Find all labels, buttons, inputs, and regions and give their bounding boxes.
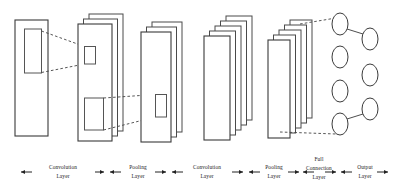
axis-label-conv-2-line-1: Convolution [193, 164, 221, 170]
axis-label-output-line-1: Output [357, 164, 373, 170]
axis-label-conv-1-line-1: Convolution [49, 164, 77, 170]
output-node-2-2 [362, 64, 378, 86]
axis-label-pool-2-line-2: Layer [267, 173, 280, 179]
conv2-plane-1 [204, 36, 230, 140]
output-node-1-2 [332, 46, 348, 68]
axis-segment-full-connection: Full Connection Layer [303, 156, 336, 180]
axis-segment-conv-1: Convolution Layer [21, 164, 104, 179]
stage-pool1 [141, 22, 182, 142]
output-node-1-3 [332, 80, 348, 102]
output-node-2-1 [362, 28, 378, 50]
axis-label-pool-1-line-1: Pooling [129, 164, 147, 170]
output-node-2-3 [362, 98, 378, 120]
conv1-inner-box-top [85, 47, 96, 65]
stage-input [15, 20, 48, 136]
axis-label-output-line-2: Layer [358, 173, 371, 179]
axis-label-full-connection-line-1: Full [314, 156, 323, 162]
axis-label-pool-2-line-1: Pooling [265, 164, 283, 170]
axis-segment-conv-2: Convolution Layer [172, 164, 243, 179]
output-column-1 [332, 13, 348, 135]
input-receptive-field-box [25, 29, 42, 73]
axis-label-conv-1-line-2: Layer [56, 173, 69, 179]
stage-pool2 [268, 20, 312, 138]
axis-label-row: Convolution Layer Pooling Layer Convolut… [21, 156, 388, 180]
output-node-1-1 [332, 13, 348, 35]
output-edges [347, 29, 363, 119]
axis-label-full-connection-line-2: Connection [306, 165, 332, 171]
stage-conv2 [204, 16, 252, 140]
axis-segment-output: Output Layer [341, 164, 388, 179]
axis-segment-pool-1: Pooling Layer [110, 164, 166, 179]
pool2-plane-1 [268, 40, 290, 138]
stage-conv1 [78, 14, 123, 141]
pool1-plane-1 [141, 32, 171, 142]
axis-segment-pool-2: Pooling Layer [249, 164, 299, 179]
stage-output [332, 13, 378, 135]
axis-label-pool-1-line-2: Layer [131, 173, 144, 179]
pool1-inner-box [156, 95, 167, 118]
output-column-2 [362, 28, 378, 120]
conv1-inner-box-bottom [85, 98, 104, 130]
output-node-1-4 [332, 113, 348, 135]
axis-label-conv-2-line-2: Layer [200, 173, 213, 179]
cnn-architecture-diagram: Convolution Layer Pooling Layer Convolut… [0, 0, 393, 196]
diagram-canvas: Convolution Layer Pooling Layer Convolut… [0, 0, 393, 196]
axis-label-full-connection-line-3: Layer [312, 174, 325, 180]
